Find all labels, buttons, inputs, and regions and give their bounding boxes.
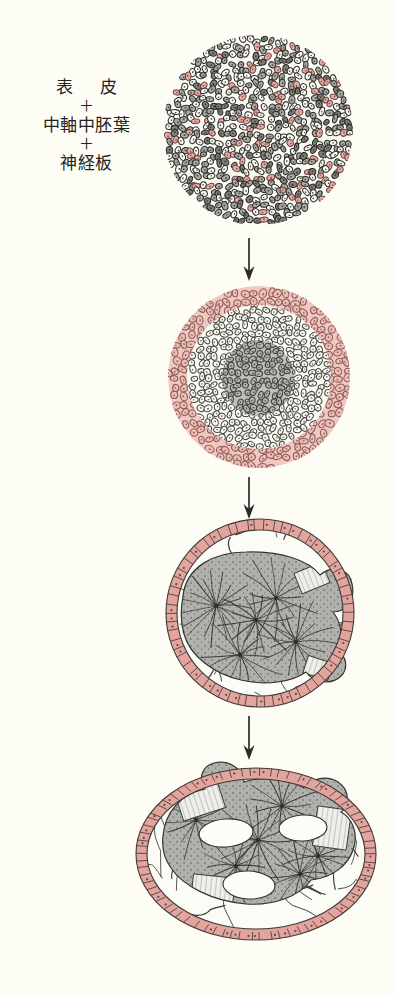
caption-line-neural-plate: 神経板 <box>24 154 149 173</box>
caption-block: 表 皮 ＋ 中軸中胚葉 ＋ 神経板 <box>24 78 149 173</box>
caption-plus-2: ＋ <box>24 135 149 154</box>
caption-line-axial-mesoderm: 中軸中胚葉 <box>24 116 149 135</box>
caption-line-epidermis: 表 皮 <box>24 78 149 97</box>
caption-plus-1: ＋ <box>24 97 149 116</box>
figure-root: 表 皮 ＋ 中軸中胚葉 ＋ 神経板 <box>0 0 396 995</box>
